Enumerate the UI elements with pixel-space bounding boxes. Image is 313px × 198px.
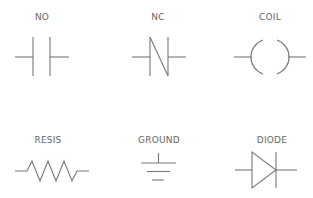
symbols-canvas (0, 0, 313, 198)
diode-icon (235, 152, 297, 188)
no-contact-icon (15, 37, 69, 76)
ground-icon (141, 153, 176, 180)
coil-icon (234, 40, 306, 74)
resistor-icon (15, 161, 89, 181)
nc-contact-icon (132, 37, 186, 76)
